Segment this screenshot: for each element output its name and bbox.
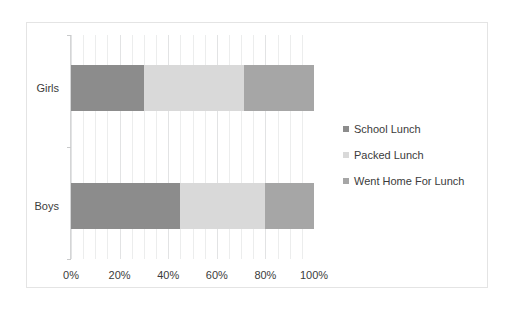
x-axis-tick-label: 40% [157,269,179,281]
category-label-boys: Boys [0,183,59,229]
x-axis-tick-label: 80% [254,269,276,281]
x-axis-tick-label: 20% [109,269,131,281]
chart-legend: School Lunch Packed Lunch Went Home For … [343,123,483,201]
legend-swatch-icon [343,126,349,132]
legend-label: Packed Lunch [354,149,424,161]
category-label-girls: Girls [0,65,59,111]
bar-segment-girls-packed-lunch[interactable] [144,65,244,111]
bar-segment-girls-went-home[interactable] [244,65,314,111]
legend-label: School Lunch [354,123,421,135]
x-axis-tick-label: 60% [206,269,228,281]
bar-segment-boys-school-lunch[interactable] [71,183,180,229]
legend-swatch-icon [343,178,349,184]
bar-segment-boys-packed-lunch[interactable] [180,183,265,229]
legend-item-went-home-for-lunch[interactable]: Went Home For Lunch [343,175,483,187]
legend-label: Went Home For Lunch [354,175,464,187]
chart-frame: Girls Boys 0%20%40%60%80%100% School Lun… [26,22,488,288]
x-axis-tick-labels: 0%20%40%60%80%100% [71,259,314,283]
bar-segment-boys-went-home[interactable] [265,183,314,229]
legend-swatch-icon [343,152,349,158]
plot-area: Girls Boys 0%20%40%60%80%100% [71,35,314,259]
y-axis-tick [67,35,71,36]
y-axis-tick [67,147,71,148]
legend-item-packed-lunch[interactable]: Packed Lunch [343,149,483,161]
bar-segment-girls-school-lunch[interactable] [71,65,144,111]
x-axis-tick-label: 100% [300,269,328,281]
x-axis-tick-label: 0% [63,269,79,281]
legend-item-school-lunch[interactable]: School Lunch [343,123,483,135]
